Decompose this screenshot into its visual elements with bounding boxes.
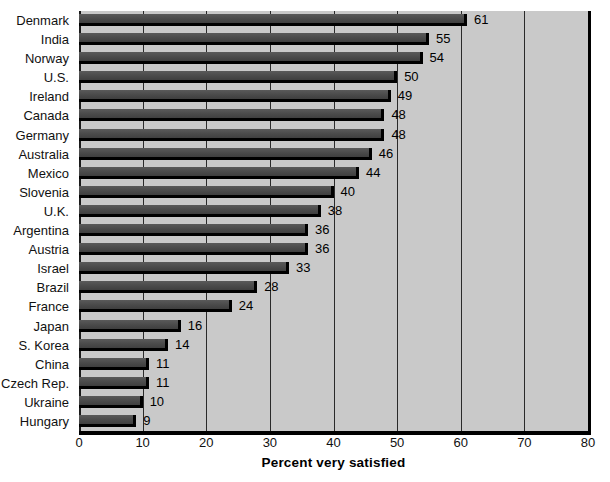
category-label: U.S.	[0, 68, 74, 87]
bar	[79, 52, 423, 64]
category-label: Australia	[0, 145, 74, 164]
bar-value-label: 33	[296, 260, 310, 276]
bar	[79, 415, 136, 427]
x-tick-label: 70	[517, 435, 531, 450]
bar-value-label: 28	[264, 279, 278, 295]
bar-value-label: 10	[150, 394, 164, 410]
bar-row: 61	[79, 11, 588, 30]
category-label: France	[0, 297, 74, 316]
bar-row: 11	[79, 374, 588, 393]
bar-row: 9	[79, 412, 588, 431]
bar	[79, 186, 334, 198]
category-label: Slovenia	[0, 183, 74, 202]
bar	[79, 320, 181, 332]
x-tick-label: 80	[581, 435, 595, 450]
bar	[79, 300, 232, 312]
bar-value-label: 36	[315, 241, 329, 257]
category-label: S. Korea	[0, 336, 74, 355]
bar	[79, 281, 257, 293]
bar	[79, 339, 168, 351]
bar-row: 10	[79, 393, 588, 412]
bar-row: 36	[79, 240, 588, 259]
bar-value-label: 46	[379, 146, 393, 162]
bar	[79, 71, 397, 83]
category-label: Hungary	[0, 412, 74, 431]
bar-row: 50	[79, 68, 588, 87]
category-label: Norway	[0, 49, 74, 68]
bar-value-label: 49	[398, 88, 412, 104]
bar-row: 33	[79, 259, 588, 278]
bar	[79, 243, 308, 255]
bar-row: 48	[79, 126, 588, 145]
category-label: Canada	[0, 106, 74, 125]
plot-area: 6155545049484846444038363633282416141111…	[79, 11, 591, 435]
bar-value-label: 44	[366, 165, 380, 181]
bar	[79, 109, 384, 121]
bar	[79, 377, 149, 389]
bar-value-label: 11	[156, 356, 170, 372]
bar-row: 24	[79, 297, 588, 316]
bar-value-label: 36	[315, 222, 329, 238]
bar-row: 48	[79, 106, 588, 125]
category-label: Israel	[0, 259, 74, 278]
bar	[79, 224, 308, 236]
bar-value-label: 48	[391, 107, 405, 123]
x-tick-label: 50	[390, 435, 404, 450]
bar-chart: DenmarkIndiaNorwayU.S.IrelandCanadaGerma…	[0, 0, 610, 482]
bar-value-label: 38	[328, 203, 342, 219]
bar-row: 36	[79, 221, 588, 240]
x-tick-label: 60	[454, 435, 468, 450]
category-label: Denmark	[0, 11, 74, 30]
bar-row: 11	[79, 355, 588, 374]
bar-value-label: 50	[404, 69, 418, 85]
category-label: Japan	[0, 317, 74, 336]
x-axis-ticks: 01020304050607080	[79, 435, 591, 457]
bar	[79, 14, 467, 26]
bar-row: 49	[79, 87, 588, 106]
category-axis-labels: DenmarkIndiaNorwayU.S.IrelandCanadaGerma…	[0, 11, 74, 431]
bar-value-label: 16	[188, 318, 202, 334]
bar-value-label: 24	[239, 298, 253, 314]
bar-row: 16	[79, 317, 588, 336]
bar	[79, 148, 372, 160]
x-tick-label: 10	[135, 435, 149, 450]
x-tick-label: 0	[75, 435, 82, 450]
bar	[79, 358, 149, 370]
bar	[79, 205, 321, 217]
bars-layer: 6155545049484846444038363633282416141111…	[79, 11, 588, 431]
category-label: Germany	[0, 126, 74, 145]
category-label: Brazil	[0, 278, 74, 297]
category-label: Ukraine	[0, 393, 74, 412]
category-label: U.K.	[0, 202, 74, 221]
x-tick-label: 30	[263, 435, 277, 450]
bar	[79, 396, 143, 408]
x-axis-title: Percent very satisfied	[79, 455, 588, 470]
bar-value-label: 54	[430, 50, 444, 66]
bar-value-label: 14	[175, 337, 189, 353]
bar-value-label: 9	[143, 413, 150, 429]
bar	[79, 167, 359, 179]
bar	[79, 90, 391, 102]
bar	[79, 129, 384, 141]
category-label: India	[0, 30, 74, 49]
bar-value-label: 11	[156, 375, 170, 391]
category-label: Czech Rep.	[0, 374, 74, 393]
category-label: Austria	[0, 240, 74, 259]
category-label: Ireland	[0, 87, 74, 106]
bar-value-label: 48	[391, 127, 405, 143]
x-tick-label: 20	[199, 435, 213, 450]
category-label: China	[0, 355, 74, 374]
category-label: Mexico	[0, 164, 74, 183]
bar	[79, 33, 429, 45]
bar-row: 46	[79, 145, 588, 164]
bar-row: 55	[79, 30, 588, 49]
bar-row: 14	[79, 336, 588, 355]
bar-value-label: 55	[436, 31, 450, 47]
bar-row: 44	[79, 164, 588, 183]
x-tick-label: 40	[326, 435, 340, 450]
bar-value-label: 61	[474, 12, 488, 28]
bar-row: 40	[79, 183, 588, 202]
bar-value-label: 40	[341, 184, 355, 200]
bar-row: 54	[79, 49, 588, 68]
bar-row: 38	[79, 202, 588, 221]
